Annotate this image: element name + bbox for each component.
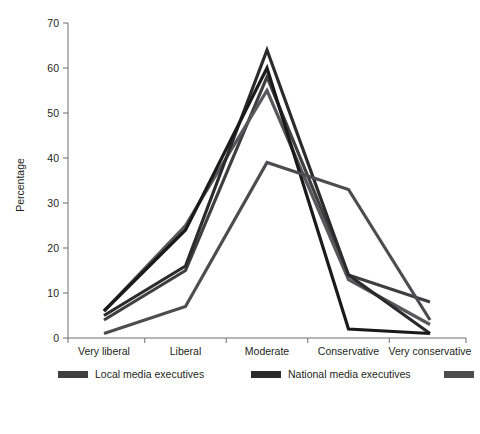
- y-tick-label: 60: [47, 62, 59, 74]
- y-tick-label: 40: [47, 152, 59, 164]
- legend-label: Local media executives: [95, 369, 204, 380]
- y-tick-label: 20: [47, 242, 59, 254]
- y-tick-label: 70: [47, 17, 59, 29]
- series-line: [104, 68, 430, 334]
- x-category-label: Very liberal: [78, 345, 130, 357]
- legend-item[interactable]: Local media executives: [58, 364, 251, 384]
- y-axis-ticks: 010203040506070: [47, 17, 68, 344]
- x-category-label: Liberal: [170, 345, 202, 357]
- legend-label: National media executives: [288, 369, 411, 380]
- y-axis-title: Percentage: [14, 158, 26, 212]
- y-tick-label: 30: [47, 197, 59, 209]
- series-line: [104, 163, 430, 334]
- x-category-label: Very conservative: [389, 345, 472, 357]
- y-tick-label: 50: [47, 107, 59, 119]
- series-lines: [104, 50, 430, 334]
- x-category-label: Moderate: [245, 345, 290, 357]
- legend-swatch: [444, 371, 474, 378]
- line-chart: 010203040506070 Very liberalLiberalModer…: [0, 0, 480, 434]
- x-category-labels: Very liberalLiberalModerateConservativeV…: [78, 345, 472, 357]
- x-axis-ticks: [68, 338, 466, 343]
- legend-item[interactable]: Public: [444, 364, 480, 384]
- legend-swatch: [58, 371, 88, 378]
- y-tick-label: 10: [47, 287, 59, 299]
- x-category-label: Conservative: [318, 345, 379, 357]
- chart-legend: Local media executivesNational media exe…: [58, 364, 458, 384]
- legend-swatch: [251, 371, 281, 378]
- series-line: [104, 77, 430, 320]
- legend-item[interactable]: National media executives: [251, 364, 444, 384]
- y-tick-label: 0: [53, 332, 59, 344]
